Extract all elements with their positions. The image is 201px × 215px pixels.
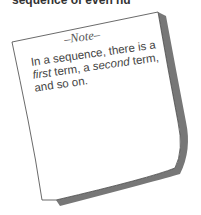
note-paper: [0, 0, 201, 215]
